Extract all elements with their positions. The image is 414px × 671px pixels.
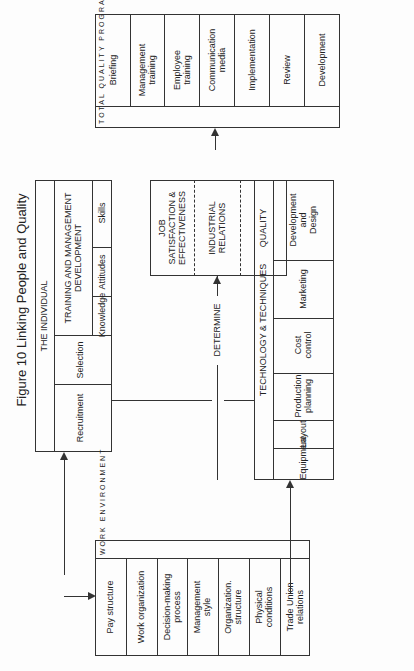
programme-label: TOTAL QUALITY PROGRAMME: [98, 108, 106, 124]
programme-item: Communication media: [207, 29, 227, 92]
arrow-right-icon: [88, 592, 96, 600]
programme-item: Review: [282, 55, 292, 85]
tech-item: Layout: [298, 420, 308, 447]
programme-item: Briefing: [108, 55, 118, 86]
work-item: Organization. structure: [223, 580, 243, 634]
work-item: Physical conditions: [254, 587, 274, 628]
work-item: Trade Union relations: [285, 582, 305, 631]
work-item: Decision-making process: [162, 574, 182, 641]
figure-title: Figure 10 Linking People and Quality: [17, 193, 27, 406]
arrow-up-icon: [60, 452, 68, 460]
outcome-job-satisfaction: JOB SATISFACTION & EFFECTIVENESS: [157, 191, 187, 265]
work-item: Management style: [192, 581, 212, 634]
arrow-up-icon: [211, 128, 219, 136]
attitudes: Attitudes: [97, 254, 107, 289]
arrow-up-icon: [213, 276, 221, 284]
knowledge: Knowledge: [97, 293, 107, 338]
tech-item: Cost control: [293, 331, 313, 358]
work-item: Pay structure: [105, 580, 115, 633]
recruitment: Recruitment: [75, 394, 85, 443]
individual-label: THE INDIVIDUAL: [39, 280, 49, 351]
technology-label: TECHNOLOGY & TECHNIQUES: [258, 264, 268, 397]
tech-item: Production planning: [293, 374, 313, 417]
determine-label: DETERMINE: [212, 303, 222, 356]
work-label: WORK ENVIRONMENT: [99, 543, 107, 555]
programme-item: Implementation: [247, 29, 257, 91]
training-development: TRAINING AND MANAGEMENT DEVELOPMENT: [63, 192, 83, 323]
arrow-up-icon: [286, 480, 294, 488]
tech-item: Development and Design: [288, 193, 318, 246]
selection: Selection: [75, 341, 85, 378]
skills: Skills: [97, 202, 107, 223]
tech-item: Marketing: [298, 269, 308, 309]
programme-item: Management training: [137, 44, 157, 97]
programme-item: Employee training: [172, 50, 192, 90]
work-item: Work organization: [136, 571, 146, 643]
programme-item: Development: [317, 33, 327, 86]
figure-canvas: Figure 10 Linking People and Quality Bri…: [0, 0, 414, 671]
outcome-industrial-relations: INDUSTRIAL RELATIONS: [207, 201, 227, 255]
